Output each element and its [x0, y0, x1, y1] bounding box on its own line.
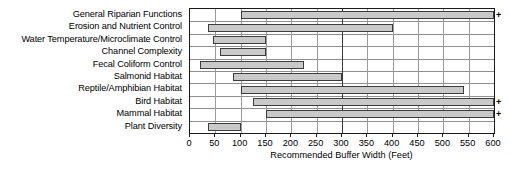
overflow-plus-marker: + — [496, 110, 501, 119]
bar — [208, 24, 393, 32]
x-tick — [265, 133, 266, 137]
x-tick — [468, 133, 469, 137]
category-label: Salmonid Habitat — [0, 70, 186, 82]
category-label: Erosion and Nutrient Control — [0, 20, 186, 32]
bar — [233, 73, 342, 81]
category-label: Fecal Coliform Control — [0, 58, 186, 70]
bar — [208, 123, 241, 131]
category-label: General Riparian Functions — [0, 8, 186, 20]
x-tick — [189, 133, 190, 137]
bar — [241, 11, 494, 19]
x-tick — [341, 133, 342, 137]
category-label: Mammal Habitat — [0, 107, 186, 119]
x-tick — [417, 133, 418, 137]
bar — [253, 98, 494, 106]
x-tick — [392, 133, 393, 137]
bar — [213, 36, 266, 44]
x-tick — [442, 133, 443, 137]
chart-container: General Riparian FunctionsErosion and Nu… — [0, 0, 510, 180]
overflow-plus-marker: + — [496, 11, 501, 20]
category-label: Plant Diversity — [0, 120, 186, 132]
category-label: Bird Habitat — [0, 95, 186, 107]
bar — [220, 48, 266, 56]
x-tick — [214, 133, 215, 137]
category-label: Water Temperature/Microclimate Control — [0, 33, 186, 45]
x-axis-title: Recommended Buffer Width (Feet) — [189, 150, 494, 160]
x-tick — [240, 133, 241, 137]
category-label: Reptile/Amphibian Habitat — [0, 82, 186, 94]
plot-inner: +++ — [190, 9, 494, 133]
x-tick — [316, 133, 317, 137]
bar — [266, 110, 494, 118]
x-tick — [493, 133, 494, 137]
overflow-plus-marker: + — [496, 98, 501, 107]
bar — [241, 86, 464, 94]
x-tick — [366, 133, 367, 137]
x-tick — [290, 133, 291, 137]
bar — [200, 61, 304, 69]
x-tick-label: 600 — [473, 138, 510, 148]
category-label: Channel Complexity — [0, 45, 186, 57]
plot-area: +++ — [189, 8, 495, 134]
category-axis-labels: General Riparian FunctionsErosion and Nu… — [0, 8, 186, 132]
